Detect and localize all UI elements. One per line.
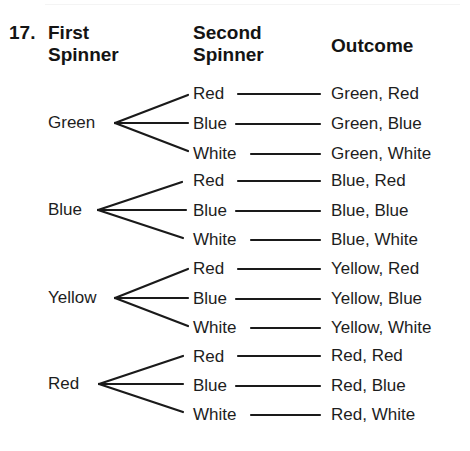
- outcome-label: Blue, Blue: [331, 201, 409, 221]
- second-spinner-label: White: [193, 405, 236, 425]
- second-spinner-label: Red: [193, 259, 224, 279]
- outcome-label: Yellow, White: [331, 318, 431, 338]
- outcome-label: Yellow, Blue: [331, 289, 422, 309]
- second-spinner-label: Blue: [193, 114, 227, 134]
- outcome-label: Green, Red: [331, 84, 419, 104]
- second-spinner-label: Blue: [193, 289, 227, 309]
- second-spinner-label: Red: [193, 347, 224, 367]
- outcome-label: Blue, White: [331, 230, 418, 250]
- second-spinner-label: Red: [193, 171, 224, 191]
- first-spinner-yellow: Yellow: [48, 288, 97, 308]
- outcome-label: Red, Red: [331, 346, 403, 366]
- outcome-label: Green, White: [331, 144, 431, 164]
- outcome-label: Green, Blue: [331, 114, 422, 134]
- second-spinner-label: Blue: [193, 376, 227, 396]
- second-spinner-label: Blue: [193, 201, 227, 221]
- first-spinner-blue: Blue: [48, 200, 82, 220]
- first-spinner-green: Green: [48, 113, 95, 133]
- second-spinner-label: White: [193, 144, 236, 164]
- outcome-label: Yellow, Red: [331, 259, 419, 279]
- second-spinner-label: Red: [193, 84, 224, 104]
- outcome-label: Blue, Red: [331, 171, 406, 191]
- outcome-label: Red, Blue: [331, 376, 406, 396]
- first-spinner-red: Red: [48, 374, 79, 394]
- second-spinner-label: White: [193, 318, 236, 338]
- second-spinner-label: White: [193, 230, 236, 250]
- outcome-label: Red, White: [331, 405, 415, 425]
